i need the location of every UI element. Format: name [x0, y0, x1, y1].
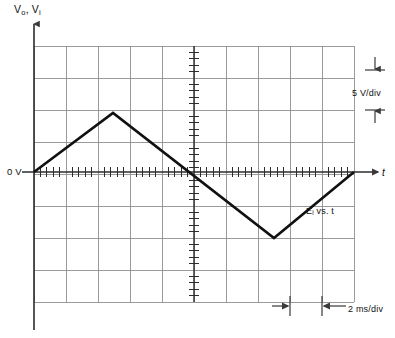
zero-volt-label: 0 V — [7, 167, 22, 177]
time-per-div-label: 2 ms/div — [348, 305, 383, 314]
trace-label-rest: vs. t — [314, 206, 334, 216]
trace-label: Ei vs. t — [306, 207, 334, 217]
time-per-div-callout — [272, 296, 346, 316]
figure-root: Vo, Vi 0 V t 5 V/div 2 ms/div Ei vs. t — [0, 0, 395, 338]
volts-per-div-label: 5 V/div — [352, 89, 381, 98]
y-axis-label-sub-i: i — [39, 8, 41, 17]
y-axis-label: Vo, Vi — [14, 4, 41, 16]
y-axis-label-sep: , V — [26, 3, 39, 15]
figure-caption — [0, 328, 395, 338]
t-axis-label: t — [382, 168, 385, 178]
oscilloscope-graph — [0, 0, 395, 338]
